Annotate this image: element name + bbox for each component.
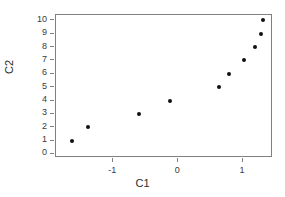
data-point xyxy=(253,45,257,49)
x-tick-label: 1 xyxy=(240,166,245,175)
data-point xyxy=(242,58,246,62)
x-tick-label: -1 xyxy=(108,166,116,175)
x-axis-title: C1 xyxy=(0,178,285,189)
data-point xyxy=(137,112,141,116)
x-tick-mark xyxy=(112,158,113,162)
data-point xyxy=(261,18,265,22)
scatter-plot: C2 012345678910 -101 C1 xyxy=(0,0,285,197)
x-tick-mark xyxy=(177,158,178,162)
data-point xyxy=(259,32,263,36)
plot-panel xyxy=(55,14,272,157)
data-point xyxy=(227,72,231,76)
data-point xyxy=(70,139,74,143)
data-point xyxy=(217,85,221,89)
data-point xyxy=(86,125,90,129)
x-tick-label: 0 xyxy=(175,166,180,175)
x-tick-mark xyxy=(242,158,243,162)
data-point xyxy=(168,99,172,103)
